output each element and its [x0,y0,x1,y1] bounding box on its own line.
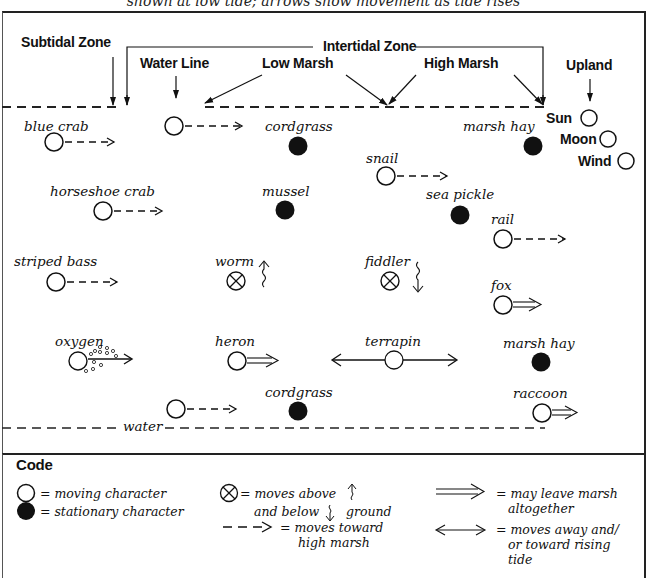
wind-circle [618,153,634,169]
label-blue-crab: blue crab [24,118,89,134]
zone-label-upland: Upland [566,57,612,73]
code-moving: = moving character [40,486,166,501]
label-fox: fox [491,277,512,293]
moon-circle [600,131,616,147]
code-burrow-2: and below [254,504,319,519]
label-terrapin: terrapin [365,333,421,349]
zone-label-water-line: Water Line [140,55,209,71]
code-dashed-1: = moves toward [280,520,383,535]
label-cordgrass-top: cordgrass [265,118,333,134]
label-worm: worm [215,253,254,269]
code-burrow-3: ground [346,504,392,519]
label-rail: rail [491,211,514,227]
label-sea-pickle: sea pickle [426,186,494,202]
label-fiddler: fiddler [365,253,410,269]
label-striped-bass: striped bass [14,253,97,269]
sun-circle [581,110,597,126]
code-both-3: tide [508,552,532,567]
zone-label-high-marsh: High Marsh [424,55,498,71]
wind-label: Wind [578,153,611,169]
zone-label-low-marsh: Low Marsh [262,55,333,71]
code-burrow-1: = moves above [240,486,336,501]
label-marsh-hay-top: marsh hay [463,118,535,134]
label-marsh-hay-bottom: marsh hay [503,335,575,351]
code-double-1: = may leave marsh [496,486,618,501]
label-oxygen: oxygen [55,333,104,349]
code-both-2: or toward rising [508,537,611,552]
label-cordgrass-bottom: cordgrass [265,384,333,400]
label-heron: heron [215,333,255,349]
label-water: water [123,418,162,434]
code-title: Code [16,456,53,473]
code-stationary: = stationary character [40,504,184,519]
zone-label-subtidal: Subtidal Zone [21,34,111,50]
code-dashed-2: high marsh [298,535,370,550]
code-both-1: = moves away and/ [496,522,619,537]
label-horseshoe-crab: horseshoe crab [50,183,155,199]
sun-label: Sun [546,110,572,126]
moon-label: Moon [560,131,597,147]
zone-label-intertidal: Intertidal Zone [323,38,416,54]
label-snail: snail [366,150,398,166]
code-double-2: altogether [508,501,574,516]
label-mussel: mussel [262,183,310,199]
label-raccoon: raccoon [513,385,568,401]
